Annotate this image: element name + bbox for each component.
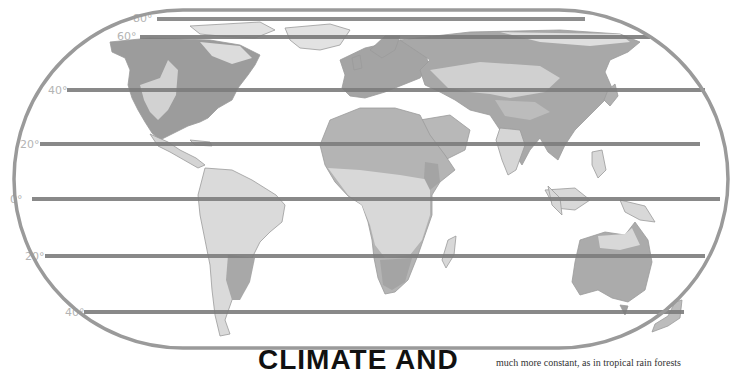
central-america	[150, 134, 205, 168]
article-heading: CLIMATE AND	[258, 346, 459, 373]
new-guinea	[620, 200, 655, 222]
sa-south-zone	[226, 255, 255, 300]
australia	[572, 222, 652, 302]
latitude-line-40s	[84, 310, 684, 314]
africa-south-zone	[380, 258, 412, 290]
africa-tropical	[328, 168, 430, 258]
latitude-line-equator	[32, 197, 720, 201]
latitude-line-60n	[140, 35, 650, 39]
latitude-line-20n	[40, 142, 700, 146]
latitude-label-20n: 20°	[20, 138, 40, 151]
latitude-label-40n: 40°	[48, 84, 68, 97]
british-isles	[352, 55, 362, 70]
latitude-line-40n	[67, 88, 705, 92]
latitude-label-60n: 60°	[117, 30, 137, 43]
latitude-line-80n	[157, 17, 585, 21]
philippines	[592, 150, 606, 178]
india	[496, 128, 525, 175]
article-body-fragment: much more constant, as in tropical rain …	[496, 358, 681, 368]
continents	[110, 22, 682, 336]
madagascar	[442, 236, 456, 268]
latitude-line-20s	[45, 254, 705, 258]
